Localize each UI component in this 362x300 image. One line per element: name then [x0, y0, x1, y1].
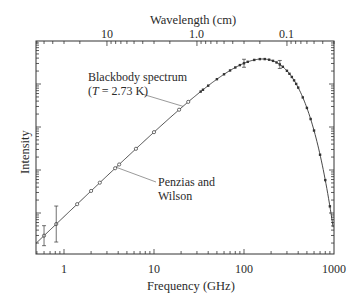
- cmb-spectrum-chart: [0, 0, 362, 300]
- x-tick-label-10: 10: [148, 263, 160, 275]
- x-tick-label-100: 100: [235, 263, 253, 275]
- penzias-wilson-line1: Penzias and: [158, 175, 215, 189]
- x2-tick-label-0.1: 0.1: [279, 28, 294, 40]
- y-axis-title: Intensity: [19, 130, 32, 174]
- x-axis-title: Frequency (GHz): [147, 280, 235, 293]
- blackbody-temperature: (T = 2.73 K): [88, 84, 187, 98]
- x2-tick-label-10: 10: [101, 28, 113, 40]
- penzias-wilson-line2: Wilson: [158, 189, 215, 203]
- penzias-wilson-annotation: Penzias and Wilson: [158, 175, 215, 203]
- x2-tick-label-1: 1.0: [189, 28, 204, 40]
- x-tick-label-1000: 1000: [322, 263, 346, 275]
- x-tick-label-1: 1: [61, 263, 67, 275]
- x2-axis-title: Wavelength (cm): [150, 14, 236, 27]
- blackbody-annotation: Blackbody spectrum (T = 2.73 K): [88, 70, 187, 98]
- blackbody-label: Blackbody spectrum: [88, 70, 187, 84]
- annotation-leaders: [116, 94, 183, 182]
